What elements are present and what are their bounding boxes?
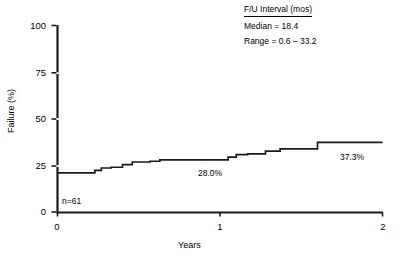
x-tick-label-0: 0 [45, 221, 69, 232]
x-tick-label-2: 2 [371, 221, 395, 232]
y-tick-label-25: 25 [16, 160, 46, 171]
endpoint-value-annotation: 37.3% [340, 152, 364, 162]
legend-row-median: Median = 18.4 [244, 20, 356, 33]
y-axis-tick-marks [52, 26, 57, 213]
y-axis-label: Failure (%) [6, 76, 16, 146]
failure-curve-figure: Failure (%) Years 100 75 50 25 0 0 1 2 n… [0, 0, 409, 264]
x-tick-label-1: 1 [208, 221, 232, 232]
midpoint-value-annotation: 28.0% [198, 168, 222, 178]
y-tick-label-75: 75 [16, 67, 46, 78]
legend-title: F/U Interval (mos) [244, 3, 312, 17]
legend-row-range: Range = 0.6 – 33.2 [244, 35, 356, 48]
y-tick-label-100: 100 [16, 20, 46, 31]
x-axis-label: Years [178, 240, 201, 250]
axis-spines [56, 25, 383, 213]
y-tick-label-0: 0 [16, 206, 46, 217]
follow-up-interval-legend: F/U Interval (mos) Median = 18.4 Range =… [244, 3, 356, 48]
y-tick-label-50: 50 [16, 113, 46, 124]
sample-size-annotation: n=61 [62, 196, 81, 206]
